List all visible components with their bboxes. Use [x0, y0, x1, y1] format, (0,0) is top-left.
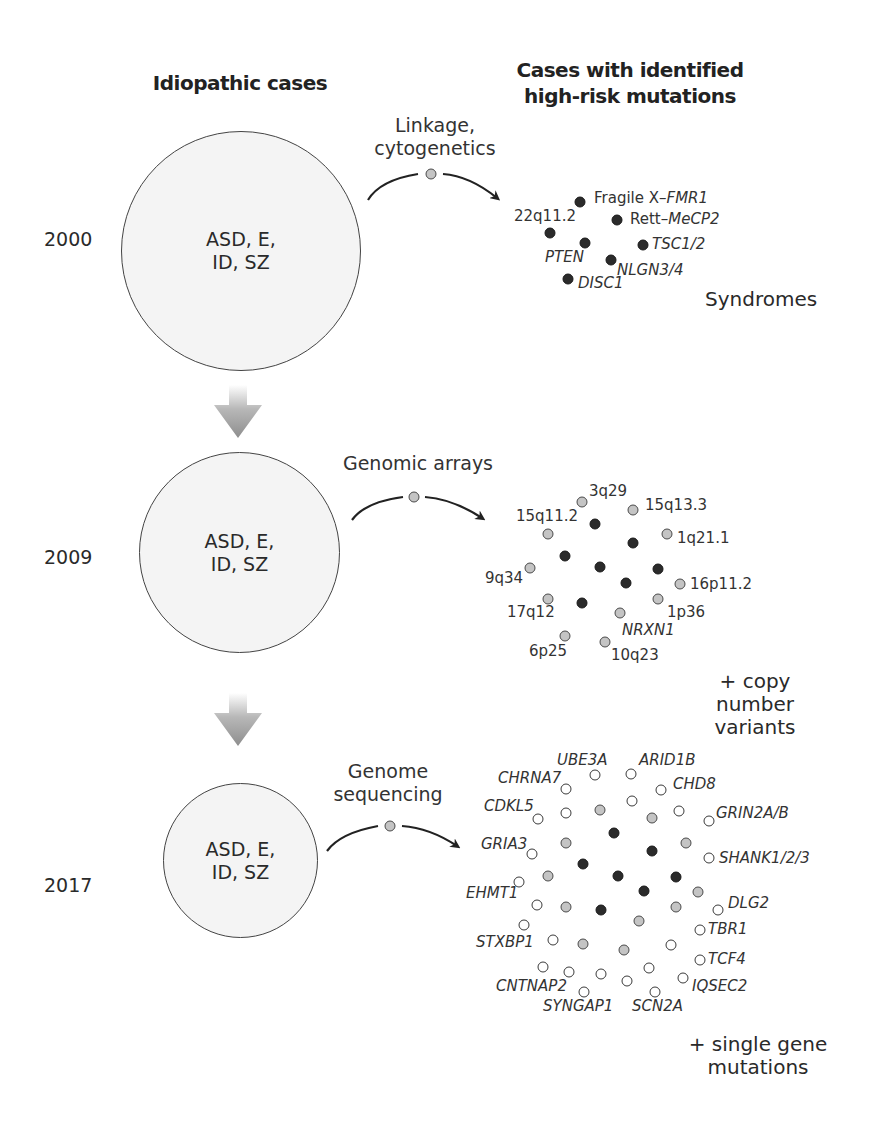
cnv-dot-icon — [600, 637, 611, 648]
syndrome-dot-icon — [560, 551, 571, 562]
gene-dot-icon — [678, 973, 689, 984]
gene-dot-icon — [666, 940, 677, 951]
label-pten: PTEN — [545, 249, 584, 266]
gene-dot-icon — [564, 967, 575, 978]
cnv-dot-icon — [662, 529, 673, 540]
gene-dot-icon — [622, 976, 633, 987]
footer-single-gene-mutations: + single gene mutations — [683, 1033, 833, 1079]
syndrome-dot-icon — [590, 519, 601, 530]
cnv-dot-icon — [653, 594, 664, 605]
cnv-dot-icon — [619, 945, 630, 956]
method-dot-icon — [426, 169, 437, 180]
syndrome-dot-icon — [671, 872, 682, 883]
cnv-dot-icon — [675, 579, 686, 590]
gene-dot-icon — [656, 785, 667, 796]
method-genome-sequencing: Genome sequencing — [318, 760, 458, 806]
cnv-dot-icon — [671, 902, 682, 913]
gene-dot-icon — [596, 969, 607, 980]
syndrome-dot-icon — [606, 255, 617, 266]
cnv-dot-icon — [615, 608, 626, 619]
syndrome-dot-icon — [545, 228, 556, 239]
idiopathic-circle-2000: ASD, E, ID, SZ — [121, 131, 361, 371]
syndrome-dot-icon — [621, 578, 632, 589]
gene-dot-icon — [626, 769, 637, 780]
label-gria3: GRIA3 — [481, 836, 527, 853]
label-nrxn1: NRXN1 — [622, 622, 675, 639]
idiopathic-circle-2017: ASD, E, ID, SZ — [163, 783, 318, 938]
syndrome-dot-icon — [609, 828, 620, 839]
label-dlg2: DLG2 — [728, 895, 769, 912]
label-6p25: 6p25 — [529, 643, 567, 660]
syndrome-dot-icon — [578, 859, 589, 870]
gene-dot-icon — [561, 784, 572, 795]
gene-dot-icon — [627, 796, 638, 807]
gene-dot-icon — [579, 987, 590, 998]
disorders-label: ASD, E, ID, SZ — [206, 228, 276, 274]
cnv-dot-icon — [543, 871, 554, 882]
method-linkage-cytogenetics: Linkage, cytogenetics — [360, 114, 510, 160]
label-cdkl5: CDKL5 — [484, 798, 534, 815]
idiopathic-circle-2009: ASD, E, ID, SZ — [139, 452, 340, 653]
gene-dot-icon — [533, 814, 544, 825]
cnv-dot-icon — [634, 916, 645, 927]
label-shank1-2-3: SHANK1/2/3 — [719, 850, 810, 867]
label-tbr1: TBR1 — [708, 921, 747, 938]
disorders-label: ASD, E, ID, SZ — [205, 530, 275, 576]
label-tsc1-2: TSC1/2 — [652, 236, 705, 253]
gene-dot-icon — [519, 920, 530, 931]
cnv-dot-icon — [628, 505, 639, 516]
cnv-dot-icon — [693, 887, 704, 898]
label-1q21-1: 1q21.1 — [677, 530, 729, 547]
syndrome-dot-icon — [647, 846, 658, 857]
gene-dot-icon — [561, 808, 572, 819]
year-2017: 2017 — [44, 874, 92, 896]
footer-syndromes: Syndromes — [705, 288, 817, 311]
label-disc1: DISC1 — [578, 275, 624, 292]
label-15q13-3: 15q13.3 — [645, 497, 707, 514]
gene-dot-icon — [704, 816, 715, 827]
method-dot-icon — [385, 821, 396, 832]
label-22q11-2: 22q11.2 — [514, 208, 576, 225]
gene-dot-icon — [590, 770, 601, 781]
syndrome-dot-icon — [653, 564, 664, 575]
gene-dot-icon — [532, 900, 543, 911]
method-genomic-arrays: Genomic arrays — [338, 452, 498, 475]
syndrome-dot-icon — [563, 274, 574, 285]
label-9q34: 9q34 — [485, 570, 523, 587]
label-chd8: CHD8 — [673, 776, 716, 793]
down-arrow-icon — [214, 385, 262, 438]
cnv-dot-icon — [525, 563, 536, 574]
label-nlgn3-4: NLGN3/4 — [617, 262, 684, 279]
cnv-dot-icon — [647, 813, 658, 824]
gene-dot-icon — [704, 853, 715, 864]
syndrome-dot-icon — [639, 886, 650, 897]
label-1p36: 1p36 — [667, 604, 705, 621]
syndrome-dot-icon — [595, 562, 606, 573]
syndrome-dot-icon — [613, 871, 624, 882]
gene-dot-icon — [644, 963, 655, 974]
gene-dot-icon — [695, 955, 706, 966]
label-syngap1: SYNGAP1 — [543, 998, 613, 1015]
label-17q12: 17q12 — [507, 604, 555, 621]
gene-dot-icon — [548, 935, 559, 946]
label-rett: Rett–MeCP2 — [630, 211, 719, 228]
syndrome-dot-icon — [628, 538, 639, 549]
label-cntnap2: CNTNAP2 — [496, 978, 567, 995]
label-grin2a-b: GRIN2A/B — [716, 805, 789, 822]
cnv-dot-icon — [577, 497, 588, 508]
label-arid1b: ARID1B — [639, 752, 696, 769]
cnv-dot-icon — [560, 631, 571, 642]
label-ehmt1: EHMT1 — [466, 885, 518, 902]
gene-dot-icon — [650, 987, 661, 998]
syndrome-dot-icon — [577, 598, 588, 609]
label-stxbp1: STXBP1 — [476, 934, 534, 951]
gene-dot-icon — [695, 925, 706, 936]
cnv-dot-icon — [681, 838, 692, 849]
year-2000: 2000 — [44, 228, 92, 250]
label-tcf4: TCF4 — [708, 951, 746, 968]
gene-dot-icon — [674, 806, 685, 817]
label-chrna7: CHRNA7 — [498, 770, 561, 787]
gene-dot-icon — [538, 962, 549, 973]
syndrome-dot-icon — [575, 197, 586, 208]
gene-dot-icon — [713, 905, 724, 916]
